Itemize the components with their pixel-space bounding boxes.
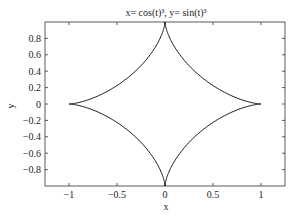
plot-area bbox=[45, 22, 285, 186]
x-tick-label: 0 bbox=[163, 189, 168, 200]
y-tick-label: −0.2 bbox=[23, 115, 41, 126]
y-tick-label: 0.8 bbox=[29, 33, 42, 44]
y-tick-label: 0.4 bbox=[29, 66, 42, 77]
y-tick-label: 0.6 bbox=[29, 49, 42, 60]
y-tick-label: −0.8 bbox=[23, 164, 41, 175]
x-axis-label: x bbox=[164, 201, 169, 212]
astroid-chart: x= cos(t)³, y= sin(t)³ −1−0.500.51 −0.8−… bbox=[0, 0, 292, 220]
y-tick-label: 0.2 bbox=[29, 82, 42, 93]
y-tick-label: −0.4 bbox=[23, 131, 41, 142]
y-axis-label: y bbox=[5, 104, 16, 109]
x-tick-label: 0.5 bbox=[207, 189, 220, 200]
y-tick-label: −0.6 bbox=[23, 148, 41, 159]
x-tick-label: −0.5 bbox=[108, 189, 126, 200]
y-tick-label: 0 bbox=[36, 99, 41, 110]
x-tick-label: −1 bbox=[64, 189, 75, 200]
chart-title: x= cos(t)³, y= sin(t)³ bbox=[125, 7, 206, 19]
x-tick-label: 1 bbox=[259, 189, 264, 200]
